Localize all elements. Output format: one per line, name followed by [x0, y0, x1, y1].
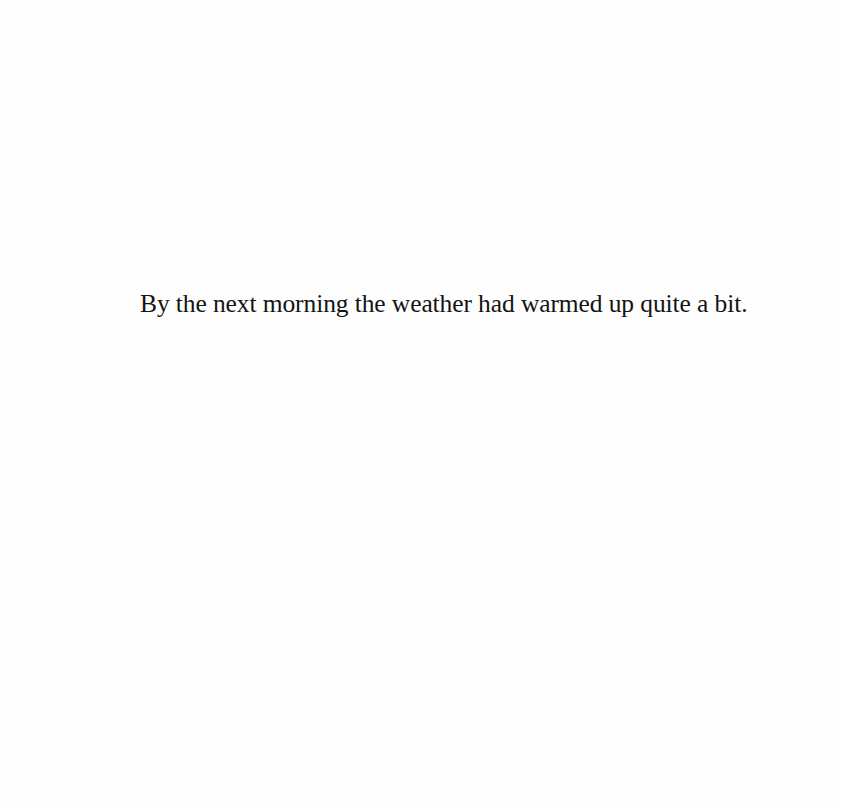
story-text: By the next morning the weather had warm…: [140, 286, 800, 322]
book-page: By the next morning the weather had warm…: [0, 0, 843, 809]
